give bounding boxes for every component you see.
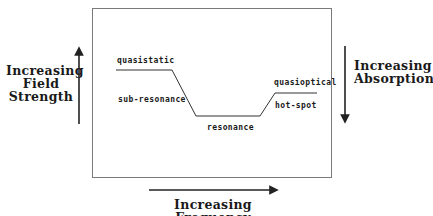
regime-hot-spot: hot-spot — [275, 101, 317, 110]
field-strength-label: Increasing Field Strength — [6, 64, 76, 103]
absorption-label-line: Absorption — [354, 72, 432, 85]
regime-sub-resonance: sub-resonance — [118, 95, 186, 104]
regime-resonance: resonance — [207, 123, 254, 132]
absorption-label: Increasing Absorption — [354, 59, 432, 85]
regime-quasistatic: quasistatic — [117, 56, 174, 65]
field-strength-label-line: Strength — [6, 90, 76, 103]
regime-quasioptical: quasioptical — [274, 78, 337, 87]
diagram-canvas — [0, 0, 433, 216]
frequency-label: Increasing Frequency — [143, 198, 283, 216]
